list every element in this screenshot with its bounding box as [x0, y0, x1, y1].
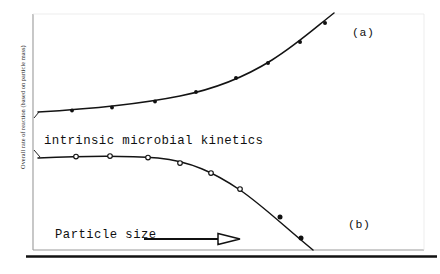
curve-b-label: (b) — [348, 218, 371, 231]
x-axis-label: Particle size — [55, 228, 157, 242]
particle-size-arrow — [144, 234, 240, 245]
curve-a-label: (a) — [352, 26, 375, 39]
figure-container: Overall rate of reaction (based on parti… — [0, 0, 440, 274]
intrinsic-kinetics-annotation: intrinsic microbial kinetics — [44, 134, 263, 148]
curve-b-markers-filled — [278, 215, 304, 241]
curve-a-markers — [70, 21, 327, 112]
curve-b-markers-open — [74, 154, 243, 192]
curve-b-origin-tick — [34, 150, 40, 157]
curve-a-line — [38, 13, 334, 112]
curve-a-origin-tick — [34, 112, 39, 118]
